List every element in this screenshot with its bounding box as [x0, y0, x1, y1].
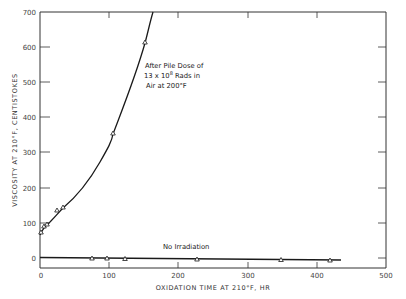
x-tick-300: 300 [241, 272, 254, 280]
x-tick-labels: 0 100 200 300 400 500 [39, 272, 393, 280]
triangle-marker [328, 258, 333, 262]
no-irradiation-annotation: No Irradiation [163, 243, 209, 251]
annotation-line-1: After Pile Dose of [145, 62, 204, 70]
x-tick-100: 100 [102, 272, 115, 280]
x-tick-500: 500 [379, 272, 392, 280]
y-tick-0: 0 [32, 255, 36, 263]
y-tick-700: 700 [23, 9, 36, 17]
y-tick-600: 600 [23, 44, 36, 52]
irradiated-annotation: After Pile Dose of 13 x 108 Rads in Air … [144, 62, 204, 90]
chart: 0 100 200 300 400 500 0 100 200 300 400 … [0, 0, 406, 299]
triangle-marker [123, 257, 128, 261]
triangle-marker [105, 256, 110, 260]
x-ticks [109, 12, 317, 268]
y-tick-labels: 0 100 200 300 400 500 600 700 [23, 9, 36, 263]
plot-frame [40, 12, 386, 268]
y-tick-200: 200 [23, 185, 36, 193]
triangle-marker [143, 40, 148, 44]
annotation-line-3: Air at 200°F [146, 82, 187, 90]
y-tick-100: 100 [23, 220, 36, 228]
triangle-marker [90, 256, 95, 260]
x-tick-0: 0 [39, 272, 43, 280]
irradiated-markers [39, 40, 148, 234]
y-tick-400: 400 [23, 114, 36, 122]
annotation-line-2: 13 x 108 Rads in [144, 70, 200, 80]
triangle-marker [195, 257, 200, 261]
triangle-marker [279, 258, 284, 262]
x-axis-title: OXIDATION TIME AT 210°F, HR [156, 284, 271, 292]
triangle-marker [61, 205, 66, 209]
triangle-marker [111, 131, 116, 135]
triangle-marker [55, 208, 60, 212]
y-ticks [40, 47, 386, 258]
y-axis-title: VISCOSITY AT 210°F, CENTISTOKES [11, 73, 19, 206]
x-tick-400: 400 [310, 272, 323, 280]
irradiated-curve [40, 12, 153, 235]
y-tick-300: 300 [23, 149, 36, 157]
no-irradiation-curve [40, 258, 341, 261]
y-tick-500: 500 [23, 79, 36, 87]
x-tick-200: 200 [171, 272, 184, 280]
